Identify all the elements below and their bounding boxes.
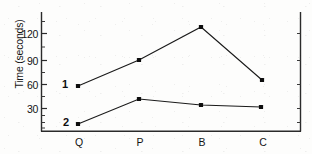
series-1-label: 1 [62,79,68,89]
series-2-line [78,99,261,124]
y-axis-major-ticks [42,34,48,109]
series-1-markers [76,25,264,88]
chart-figure: Time (seconds) 120 90 60 30 [0,0,312,154]
series-1-line [78,27,262,86]
x-tick-label-q: Q [67,136,91,148]
x-tick-label-b: B [190,136,214,148]
series-2-markers [76,97,263,126]
x-tick-label-c: C [251,136,275,148]
plot-area [0,0,312,154]
x-tick-label-p: P [128,136,152,148]
series-2-label: 2 [63,117,69,127]
